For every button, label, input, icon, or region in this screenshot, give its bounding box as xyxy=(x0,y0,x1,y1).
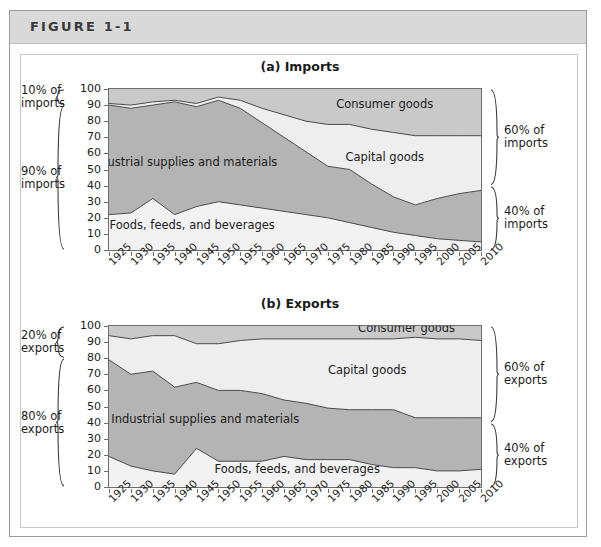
series-label: Consumer goods xyxy=(358,326,455,335)
y-axis-imports: 0102030405060708090100 xyxy=(73,88,108,251)
y-tick-label: 40 xyxy=(75,180,101,191)
y-tick-label: 10 xyxy=(75,228,101,239)
figure-body: (a) Imports 0102030405060708090100 Indus… xyxy=(20,54,578,528)
range-note: 80% ofexports xyxy=(21,410,52,436)
panel-title-imports: (a) Imports xyxy=(21,59,579,74)
series-label: Industrial supplies and materials xyxy=(111,412,299,426)
range-brace xyxy=(490,326,499,423)
y-tick-label: 70 xyxy=(75,131,101,142)
range-note: 60% ofexports xyxy=(504,361,574,387)
y-tick-label: 0 xyxy=(75,244,101,255)
y-tick-label: 80 xyxy=(75,352,101,363)
y-tick-label: 50 xyxy=(75,401,101,412)
y-tick-label: 20 xyxy=(75,212,101,223)
y-tick-label: 80 xyxy=(75,115,101,126)
range-note: 90% ofimports xyxy=(21,165,52,191)
range-note: 40% ofimports xyxy=(504,205,574,231)
range-note: 20% ofexports xyxy=(21,329,52,355)
area-chart-exports: Industrial supplies and materialsFoods, … xyxy=(109,326,481,487)
panel-title-exports: (b) Exports xyxy=(21,296,579,311)
figure-label: FIGURE 1-1 xyxy=(30,19,134,34)
series-label: Foods, feeds, and beverages xyxy=(215,462,380,476)
x-axis-exports: 1925193019351940194519501955196019651970… xyxy=(108,489,484,531)
y-tick-label: 30 xyxy=(75,433,101,444)
figure-frame: FIGURE 1-1 (a) Imports 01020304050607080… xyxy=(9,10,587,537)
figure-header: FIGURE 1-1 xyxy=(10,11,586,44)
y-axis-exports: 0102030405060708090100 xyxy=(73,325,108,488)
y-tick-label: 90 xyxy=(75,99,101,110)
plot-area-exports: Industrial supplies and materialsFoods, … xyxy=(108,325,482,488)
x-axis-imports: 1925193019351940194519501955196019651970… xyxy=(108,252,484,294)
range-note: 60% ofimports xyxy=(504,124,574,150)
panel-exports: (b) Exports 0102030405060708090100 Indus… xyxy=(21,292,579,529)
figure-page: FIGURE 1-1 (a) Imports 01020304050607080… xyxy=(0,0,601,547)
y-tick-label: 20 xyxy=(75,449,101,460)
range-brace xyxy=(490,186,499,250)
range-note: 40% ofexports xyxy=(504,442,574,468)
range-brace xyxy=(490,89,499,186)
panel-imports: (a) Imports 0102030405060708090100 Indus… xyxy=(21,55,579,292)
range-brace xyxy=(490,423,499,487)
y-tick-label: 10 xyxy=(75,465,101,476)
series-label: Industrial supplies and materials xyxy=(109,155,277,169)
y-tick-label: 50 xyxy=(75,164,101,175)
series-label: Foods, feeds, and beverages xyxy=(109,218,274,232)
series-label: Consumer goods xyxy=(336,97,433,111)
area-chart-imports: Industrial supplies and materialsFoods, … xyxy=(109,89,481,250)
y-tick-label: 70 xyxy=(75,368,101,379)
plot-area-imports: Industrial supplies and materialsFoods, … xyxy=(108,88,482,251)
y-tick-label: 0 xyxy=(75,481,101,492)
y-tick-label: 30 xyxy=(75,196,101,207)
y-tick-label: 100 xyxy=(75,83,101,94)
y-tick-label: 100 xyxy=(75,320,101,331)
y-tick-label: 40 xyxy=(75,417,101,428)
y-tick-label: 60 xyxy=(75,384,101,395)
series-label: Capital goods xyxy=(345,150,424,164)
series-label: Capital goods xyxy=(328,363,407,377)
y-tick-label: 90 xyxy=(75,336,101,347)
y-tick-label: 60 xyxy=(75,147,101,158)
range-note: 10% ofimports xyxy=(21,84,52,110)
